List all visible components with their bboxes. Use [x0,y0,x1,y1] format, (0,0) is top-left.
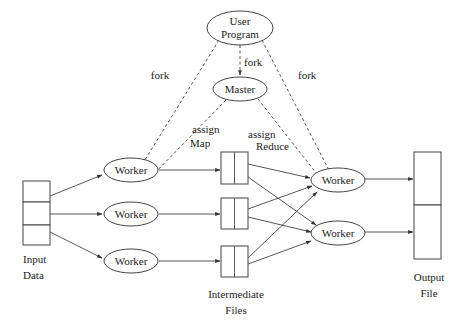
output-label-2: File [420,287,437,299]
map-worker-1: Worker [104,158,158,182]
map-worker-1-label: Worker [115,164,148,176]
edge-input-3 [50,232,102,258]
intermediate-file-3 [221,246,248,277]
output-label-1: Output [414,271,445,283]
fork-label-left: fork [151,69,170,81]
edge-input-1 [50,175,102,196]
assign-map-label-2: Map [190,137,211,149]
map-worker-2: Worker [104,202,158,226]
edge-fork-map-worker [135,40,219,176]
fork-label-right: fork [298,69,317,81]
assign-map-label-1: assign [192,123,220,135]
input-split-2 [23,202,50,225]
reduce-worker-1: Worker [311,168,365,192]
intermediate-label-2: Files [225,304,246,316]
user-program-node: User Program [207,11,273,45]
edge-i2-r2 [248,217,311,232]
input-data: Input Data [23,181,50,281]
edge-i1-r2 [248,177,316,225]
output-part-1 [414,152,441,205]
input-label-1: Input [23,253,46,265]
input-label-2: Data [23,269,44,281]
user-program-label-1: User [230,15,251,27]
input-split-1 [23,181,50,202]
master-label: Master [225,83,256,95]
user-program-label-2: Program [221,28,259,40]
reduce-worker-2-label: Worker [322,227,355,239]
intermediate-file-2 [221,198,248,229]
master-node: Master [213,77,267,101]
intermediate-file-1 [221,152,248,184]
intermediate-label-1: Intermediate [208,288,264,300]
edge-i3-r2 [248,241,311,264]
input-split-3 [23,225,50,245]
map-worker-2-label: Worker [115,208,148,220]
map-worker-3-label: Worker [115,255,148,267]
assign-reduce-label-1: assign [248,128,276,140]
intermediate-files: Intermediate Files [208,152,264,316]
fork-label-center: fork [244,56,263,68]
output-part-2 [414,205,441,259]
edge-fork-reduce-worker [262,40,331,174]
reduce-worker-1-label: Worker [322,174,355,186]
output-file: Output File [414,152,445,299]
map-worker-3: Worker [104,249,158,273]
assign-reduce-label-2: Reduce [256,140,289,152]
edge-assign-map [149,100,226,179]
mapreduce-diagram: User Program Master fork fork fork assig… [0,0,465,328]
reduce-worker-2: Worker [311,221,365,245]
edge-i1-r1 [248,164,310,178]
